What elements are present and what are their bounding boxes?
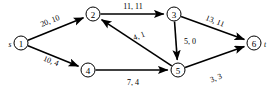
- graph-canvas: 1s23456t 20, 1010, 411, 1113, 115, 04, 1…: [0, 0, 277, 91]
- node-label-6: 6: [252, 39, 257, 49]
- node-4: 4: [81, 63, 95, 77]
- edge-label-4-5: 7, 4: [127, 78, 139, 87]
- node-label-3: 3: [172, 10, 177, 20]
- edge-5-to-6: [185, 46, 244, 67]
- edge-label-1-2: 20, 10: [39, 13, 61, 29]
- node-2: 2: [86, 7, 100, 21]
- node-3: 3: [167, 7, 181, 21]
- node-6: 6t: [247, 36, 267, 50]
- edge-label-2-3: 11, 11: [123, 2, 142, 11]
- node-label-1: 1: [19, 39, 24, 49]
- edge-label-3-5: 5, 0: [184, 37, 196, 46]
- edge-label-5-2: 4, 1: [132, 30, 146, 43]
- edge-3-to-5: [175, 21, 178, 59]
- edge-label-5-6: 3, 3: [209, 72, 223, 85]
- node-label-5: 5: [176, 66, 181, 76]
- node-label-4: 4: [86, 66, 91, 76]
- node-label-2: 2: [91, 10, 96, 20]
- flow-network-figure: 1s23456t 20, 1010, 411, 1113, 115, 04, 1…: [0, 0, 277, 91]
- node-1: 1s: [9, 36, 28, 50]
- terminal-label-s: s: [9, 40, 12, 49]
- edge-label-1-4: 10, 4: [42, 54, 60, 68]
- edge-5-to-2: [102, 20, 172, 66]
- node-5: 5: [171, 63, 185, 77]
- terminal-label-t: t: [264, 40, 267, 49]
